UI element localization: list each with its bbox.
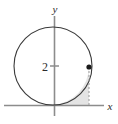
tick-label-2: 2: [42, 60, 48, 74]
shaded-region: [53, 67, 89, 105]
marked-point: [86, 64, 91, 69]
y-axis-label: y: [52, 3, 58, 15]
figure-canvas: 2 y x: [0, 0, 118, 124]
geometry-figure: 2 y x: [0, 0, 118, 124]
x-axis-label: x: [107, 100, 113, 112]
